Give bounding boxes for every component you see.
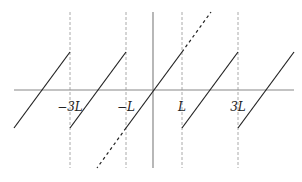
dashed-extension — [182, 12, 211, 52]
tick-label-L: L — [178, 101, 186, 113]
sawtooth-diagram — [0, 0, 302, 182]
dashed-extension — [97, 128, 126, 168]
tick-label-3L: 3L — [230, 101, 246, 113]
tick-label-minus-3L: −3L — [57, 101, 83, 113]
tick-label-minus-L: −L — [117, 101, 135, 113]
